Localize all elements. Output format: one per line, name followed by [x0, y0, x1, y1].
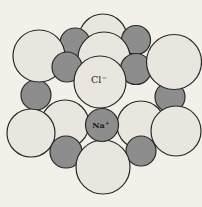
nacl-crystal-figure: Cl−Na+: [0, 0, 202, 207]
chloride-ion: [147, 35, 202, 90]
sodium-ion: [126, 136, 156, 166]
chloride-ion: [7, 109, 55, 157]
chloride-charge: −: [102, 74, 107, 82]
chloride-ion: [151, 106, 201, 156]
chloride-ion: [76, 140, 130, 194]
chloride-symbol: Cl: [91, 74, 101, 85]
sodium-ion: [21, 80, 51, 110]
sodium-charge: +: [105, 120, 110, 126]
sodium-symbol: Na: [92, 120, 105, 130]
nacl-structure-figure: Cl−Na+: [0, 0, 202, 207]
